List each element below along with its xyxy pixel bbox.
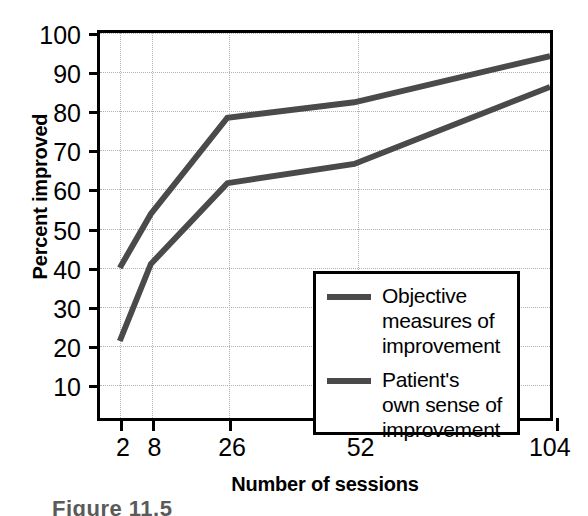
y-tick: 20 <box>89 346 100 349</box>
y-axis-title: Percent improved <box>29 47 52 347</box>
legend-item-patients: Patient's own sense of improvement <box>316 367 517 442</box>
legend-label-patients-line2: own sense of <box>382 393 502 416</box>
y-tick-label: 20 <box>53 335 81 361</box>
legend-label-patients-line1: Patient's <box>382 368 459 391</box>
legend-label-objective-line2: measures of <box>382 309 494 332</box>
legend-line-swatch-icon <box>327 294 371 300</box>
x-tick-label: 2 <box>116 434 130 460</box>
y-tick-label: 50 <box>53 218 81 244</box>
x-tick-label: 104 <box>529 434 571 460</box>
y-tick: 10 <box>89 385 100 388</box>
legend-label-objective-line3: improvement <box>382 334 500 357</box>
legend-item-objective: Objective measures of improvement <box>316 283 517 358</box>
legend-box: Objective measures of improvement Patien… <box>313 271 520 435</box>
plot-area: 102030405060708090100 282652104 Objectiv… <box>97 30 553 421</box>
y-tick-label: 60 <box>53 178 81 204</box>
y-tick-label: 80 <box>53 100 81 126</box>
y-tick: 80 <box>89 111 100 114</box>
y-tick-label: 10 <box>53 374 81 400</box>
x-tick: 26 <box>229 418 232 431</box>
y-tick-label: 70 <box>53 139 81 165</box>
legend-label-objective-line1: Objective <box>382 284 467 307</box>
x-axis-title: Number of sessions <box>97 473 553 496</box>
legend-label-patients: Patient's own sense of improvement <box>382 367 502 442</box>
x-tick-label: 8 <box>148 434 162 460</box>
figure-caption: Figure 11.5 <box>52 497 172 516</box>
y-tick-label: 40 <box>53 257 81 283</box>
x-tick: 104 <box>556 418 559 431</box>
y-tick: 100 <box>89 33 100 36</box>
y-tick: 90 <box>89 72 100 75</box>
x-tick: 2 <box>120 418 123 431</box>
y-tick: 40 <box>89 268 100 271</box>
y-tick-label: 100 <box>39 22 81 48</box>
y-tick-label: 30 <box>53 296 81 322</box>
y-tick: 70 <box>89 150 100 153</box>
x-tick: 8 <box>152 418 155 431</box>
legend-label-patients-line3: improvement <box>382 418 500 441</box>
y-tick-label: 90 <box>53 61 81 87</box>
y-tick: 60 <box>89 189 100 192</box>
x-tick-label: 26 <box>218 434 246 460</box>
legend-label-objective: Objective measures of improvement <box>382 283 500 358</box>
y-tick: 50 <box>89 229 100 232</box>
figure-container: Percent improved 102030405060708090100 2… <box>0 0 588 516</box>
series-line-objective <box>120 56 550 268</box>
legend-line-swatch-icon <box>327 378 371 384</box>
y-tick: 30 <box>89 307 100 310</box>
